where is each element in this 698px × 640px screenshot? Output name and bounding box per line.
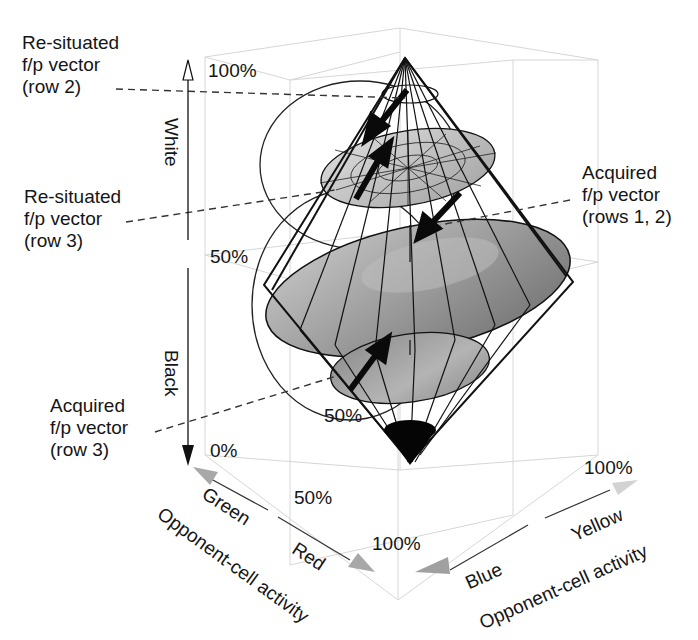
tick-50-inner: 50%: [324, 405, 362, 427]
red-arrow-icon: [348, 553, 375, 572]
tick-100-vertical: 100%: [208, 60, 257, 82]
vertical-axis: [182, 60, 194, 466]
white-axis-label: White: [160, 118, 182, 167]
white-arrow-icon: [183, 60, 193, 80]
green-arrow-icon: [193, 467, 218, 485]
annotation-acquired-rows12: Acquired f/p vector (rows 1, 2): [582, 162, 672, 228]
annotation-resituated-row2: Re-situated f/p vector (row 2): [22, 32, 119, 98]
black-axis-label: Black: [160, 350, 182, 396]
black-arrow-icon: [182, 445, 194, 466]
annotation-acquired-row3: Acquired f/p vector (row 3): [50, 395, 128, 461]
yellow-arrow-icon: [612, 480, 638, 495]
tick-100-blue-yellow: 100%: [584, 457, 633, 479]
annotation-resituated-row3: Re-situated f/p vector (row 3): [24, 186, 121, 252]
tick-50-red-green: 50%: [294, 487, 332, 509]
tick-100-red-green: 100%: [372, 533, 421, 555]
blue-arrow-icon: [415, 557, 450, 574]
tick-50-vertical: 50%: [210, 246, 248, 268]
tick-0-vertical: 0%: [210, 440, 237, 462]
